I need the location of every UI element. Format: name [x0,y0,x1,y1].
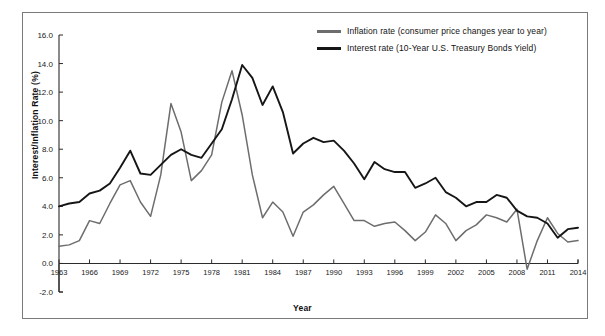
x-tick-label: 1990 [325,268,342,277]
legend-swatch-inflation [317,30,341,33]
x-tick-label: 1972 [142,268,159,277]
y-tick-label: -2.0 [39,288,53,297]
chart-legend: Inflation rate (consumer price changes y… [317,26,547,53]
y-tick-label: 16.0 [37,31,53,40]
legend-label-interest: Interest rate (10-Year U.S. Treasury Bon… [347,43,536,53]
x-tick-label: 1963 [51,268,68,277]
y-tick-label: 4.0 [42,202,54,211]
x-tick-label: 1975 [173,268,190,277]
x-tick-label: 1996 [386,268,403,277]
x-tick-label: 1984 [264,268,281,277]
legend-swatch-interest [317,47,341,50]
x-tick-label: 1993 [356,268,373,277]
y-tick-label: 2.0 [42,231,54,240]
y-tick-label: 8.0 [42,145,54,154]
y-tick-label: 0.0 [42,259,54,268]
x-tick-label: 1981 [234,268,251,277]
series-line-interest [59,65,578,238]
x-tick-label: 1999 [417,268,434,277]
y-tick-label: 6.0 [42,174,54,183]
x-tick-label: 1987 [295,268,312,277]
legend-item-inflation: Inflation rate (consumer price changes y… [317,26,547,36]
x-tick-label: 2011 [539,268,555,277]
chart-screenshot: 16.014.012.010.08.06.04.02.00.0-2.019631… [0,0,605,336]
x-axis-title: Year [0,303,605,313]
x-tick-label: 1978 [203,268,220,277]
y-axis-title: Interest/Inflation Rate (%) [30,50,40,200]
legend-label-inflation: Inflation rate (consumer price changes y… [347,26,547,36]
x-tick-label: 2005 [478,268,495,277]
x-tick-label: 2002 [448,268,465,277]
x-tick-label: 1969 [112,268,129,277]
x-tick-label: 2014 [570,268,587,277]
series-line-inflation [59,71,578,269]
x-tick-label: 2008 [509,268,526,277]
x-tick-label: 1966 [81,268,98,277]
legend-item-interest: Interest rate (10-Year U.S. Treasury Bon… [317,43,547,53]
